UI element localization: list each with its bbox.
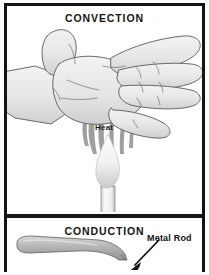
hand-icon xyxy=(7,30,202,139)
metal-rod-icon xyxy=(17,236,127,260)
callout-arrow-icon xyxy=(131,240,159,270)
panel-conduction: CONDUCTION Metal Rod xyxy=(7,220,202,275)
panel-convection: CONVECTION xyxy=(7,6,202,212)
candle-icon xyxy=(101,186,115,212)
panel-divider xyxy=(4,214,205,218)
heat-label: Heat xyxy=(95,123,113,132)
conduction-illustration xyxy=(7,220,202,275)
convection-illustration xyxy=(7,6,202,212)
metal-rod-label: Metal Rod xyxy=(147,233,192,243)
figure-root: CONVECTION xyxy=(0,0,209,275)
